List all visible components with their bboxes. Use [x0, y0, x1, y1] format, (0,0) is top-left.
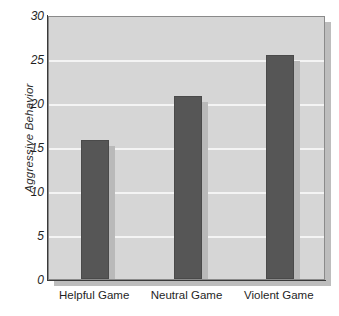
plot-area [48, 16, 325, 280]
x-tick-label: Helpful Game [59, 289, 129, 301]
bar-chart-figure: Aggressive Behavior 051015202530 Helpful… [0, 0, 339, 316]
bar[interactable] [266, 55, 294, 279]
y-tick-label: 30 [2, 9, 44, 23]
bar[interactable] [81, 140, 109, 279]
x-axis-tick-labels: Helpful GameNeutral GameViolent Game [48, 289, 325, 311]
y-tick-label: 15 [2, 141, 44, 155]
y-tick-label: 20 [2, 97, 44, 111]
y-tick-label: 0 [2, 273, 44, 287]
x-axis-line [47, 280, 326, 281]
y-tick-label: 5 [2, 229, 44, 243]
y-tick-label: 25 [2, 53, 44, 67]
x-tick-label: Neutral Game [151, 289, 223, 301]
x-tick-label: Violent Game [244, 289, 313, 301]
bar[interactable] [174, 96, 202, 279]
y-tick-label: 10 [2, 185, 44, 199]
y-axis-line [47, 15, 48, 281]
y-axis-tick-labels: 051015202530 [0, 0, 44, 316]
